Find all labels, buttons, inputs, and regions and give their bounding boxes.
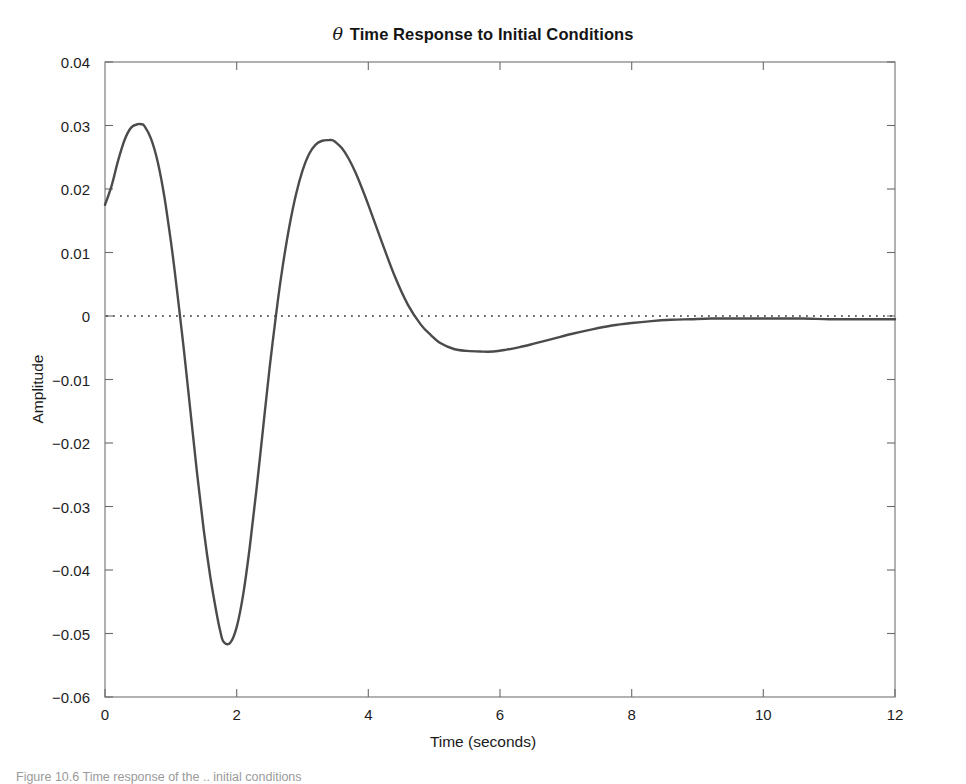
ytick-label: −0.04 [28,562,90,579]
xtick-label: 4 [364,706,372,723]
ytick-label: −0.06 [28,689,90,706]
ytick-label: −0.05 [28,625,90,642]
xtick-label: 8 [628,706,636,723]
plot-frame [105,62,895,697]
ytick-label: 0.02 [28,181,90,198]
ytick-label: −0.03 [28,498,90,515]
xtick-label: 2 [233,706,241,723]
xtick-label: 10 [755,706,772,723]
xtick-label: 6 [496,706,504,723]
ytick-label: 0.03 [28,117,90,134]
x-axis-label: Time (seconds) [0,733,966,751]
y-axis-label: Amplitude [29,309,47,469]
figure-caption: Figure 10.6 Time response of the .. init… [16,770,946,784]
ytick-label: 0.01 [28,244,90,261]
xtick-label: 0 [101,706,109,723]
xtick-label: 12 [887,706,904,723]
ytick-label: 0.04 [28,54,90,71]
